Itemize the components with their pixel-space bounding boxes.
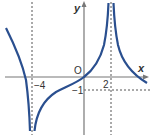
y-axis-label: y — [73, 2, 81, 14]
x-axis-label: x — [137, 62, 145, 74]
tick-label-y-neg1: −1 — [72, 85, 84, 96]
curve-branch-middle — [35, 3, 109, 131]
tick-label-x-neg4: −4 — [34, 80, 46, 91]
function-graph: y x O −4 2 −1 — [0, 0, 150, 135]
origin-label: O — [74, 65, 82, 76]
graph-canvas: y x O −4 2 −1 — [0, 0, 150, 135]
x-axis-arrow-icon — [143, 75, 149, 80]
tick-label-x-2: 2 — [103, 79, 109, 90]
y-axis-arrow-icon — [82, 1, 87, 7]
curve-branch-left — [6, 28, 30, 131]
